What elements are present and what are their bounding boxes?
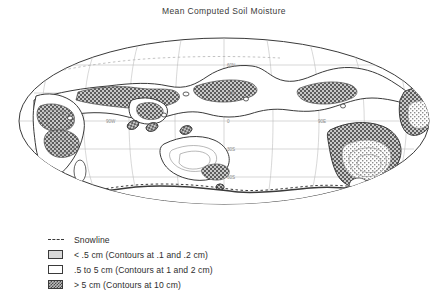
legend-item-snowline: Snowline [48, 232, 368, 247]
low-swatch-cell [48, 250, 74, 259]
light-gray-swatch-icon [48, 250, 63, 259]
legend-item-mid: .5 to 5 cm (Contours at 1 and 2 cm) [48, 262, 368, 277]
legend-label-low: < .5 cm (Contours at .1 and .2 cm) [74, 250, 208, 260]
lat-label-60s: 60S [227, 175, 235, 180]
world-map-svg: 60N 30N 0 30S 60S 90W 90E [0, 26, 448, 222]
legend-label-mid: .5 to 5 cm (Contours at 1 and 2 cm) [74, 265, 213, 275]
world-map: 60N 30N 0 30S 60S 90W 90E [0, 26, 448, 222]
map-legend: Snowline < .5 cm (Contours at .1 and .2 … [48, 232, 368, 292]
legend-item-low: < .5 cm (Contours at .1 and .2 cm) [48, 247, 368, 262]
lat-label-30n: 30N [227, 91, 235, 96]
white-swatch-icon [48, 265, 63, 274]
legend-label-snowline: Snowline [74, 235, 110, 245]
dashed-line-icon [48, 239, 64, 240]
legend-item-high: > 5 cm (Contours at 10 cm) [48, 277, 368, 292]
figure-soil-moisture-map: Mean Computed Soil Moisture [0, 0, 448, 303]
legend-label-high: > 5 cm (Contours at 10 cm) [74, 280, 181, 290]
lat-label-60n: 60N [227, 63, 235, 68]
hatched-swatch-icon [48, 280, 63, 289]
lon-label-90e: 90E [318, 119, 326, 124]
lat-label-30s: 30S [227, 147, 235, 152]
mid-swatch-cell [48, 265, 74, 274]
figure-title: Mean Computed Soil Moisture [0, 6, 448, 16]
lat-label-0: 0 [227, 119, 230, 124]
region-low-far-east [408, 101, 432, 128]
region-high-peninsula [137, 103, 164, 120]
high-swatch-cell [48, 280, 74, 289]
lon-label-90w: 90W [106, 119, 116, 124]
snowline-marker-cell [48, 239, 74, 240]
